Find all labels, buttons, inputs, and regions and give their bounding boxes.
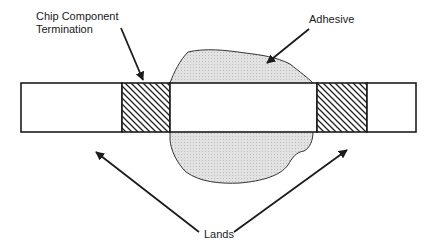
termination-label-line1: Chip Component <box>36 10 119 23</box>
left-land <box>21 83 122 132</box>
adhesive-label: Adhesive <box>309 13 354 26</box>
right-land <box>367 83 416 132</box>
termination-label-line2: Termination <box>36 23 93 36</box>
termination-arrow <box>121 28 143 80</box>
chip-body <box>170 83 317 132</box>
left-termination <box>122 83 170 132</box>
lands-label: Lands <box>204 228 234 241</box>
diagram-canvas: Chip Component Termination Adhesive Land… <box>0 0 434 249</box>
adhesive-arrow <box>267 29 309 63</box>
right-termination <box>317 83 367 132</box>
